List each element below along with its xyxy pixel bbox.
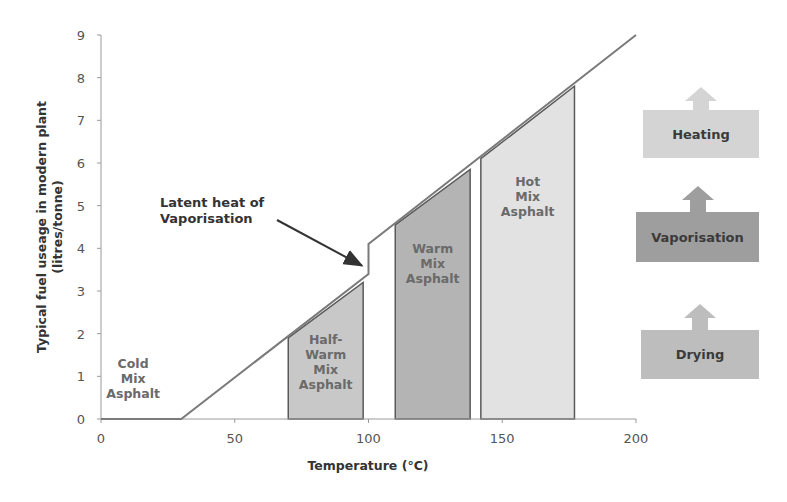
y-tick-label: 3	[77, 284, 85, 299]
y-tick-label: 1	[77, 369, 85, 384]
y-tick-label: 7	[77, 113, 85, 128]
region-hot-mix-asphalt	[481, 86, 575, 419]
y-tick-label: 6	[77, 156, 85, 171]
x-tick-label: 100	[356, 431, 381, 446]
annotation-text: Latent heat ofVaporisation	[160, 195, 265, 226]
svg-text:Typical fuel useage in modern: Typical fuel useage in modern plant	[34, 101, 49, 353]
y-tick-label: 2	[77, 327, 85, 342]
region-warm-mix-asphalt	[395, 169, 470, 419]
x-tick-label: 150	[490, 431, 515, 446]
svg-text:(litres/tonne): (litres/tonne)	[50, 180, 65, 273]
y-tick-label: 8	[77, 71, 85, 86]
legend-box: Vaporisation	[636, 212, 759, 262]
y-tick-label: 4	[77, 241, 85, 256]
x-axis-title: Temperature (°C)	[307, 458, 428, 473]
up-arrow-icon	[680, 304, 720, 330]
latent-heat-annotation: Latent heat ofVaporisation	[160, 195, 362, 266]
x-tick-label: 0	[97, 431, 105, 446]
x-tick-label: 50	[226, 431, 243, 446]
y-tick-label: 0	[77, 412, 85, 427]
legend-box: Drying	[641, 330, 759, 379]
arrow-icon	[277, 220, 362, 266]
y-tick-label: 5	[77, 199, 85, 214]
legend-box: Heating	[643, 110, 759, 158]
up-arrow-icon	[678, 186, 718, 212]
x-tick-label: 200	[624, 431, 649, 446]
y-tick-label: 9	[77, 28, 85, 43]
y-axis-title: Typical fuel useage in modern plant (lit…	[34, 101, 65, 353]
region-label: ColdMixAsphalt	[106, 356, 160, 401]
